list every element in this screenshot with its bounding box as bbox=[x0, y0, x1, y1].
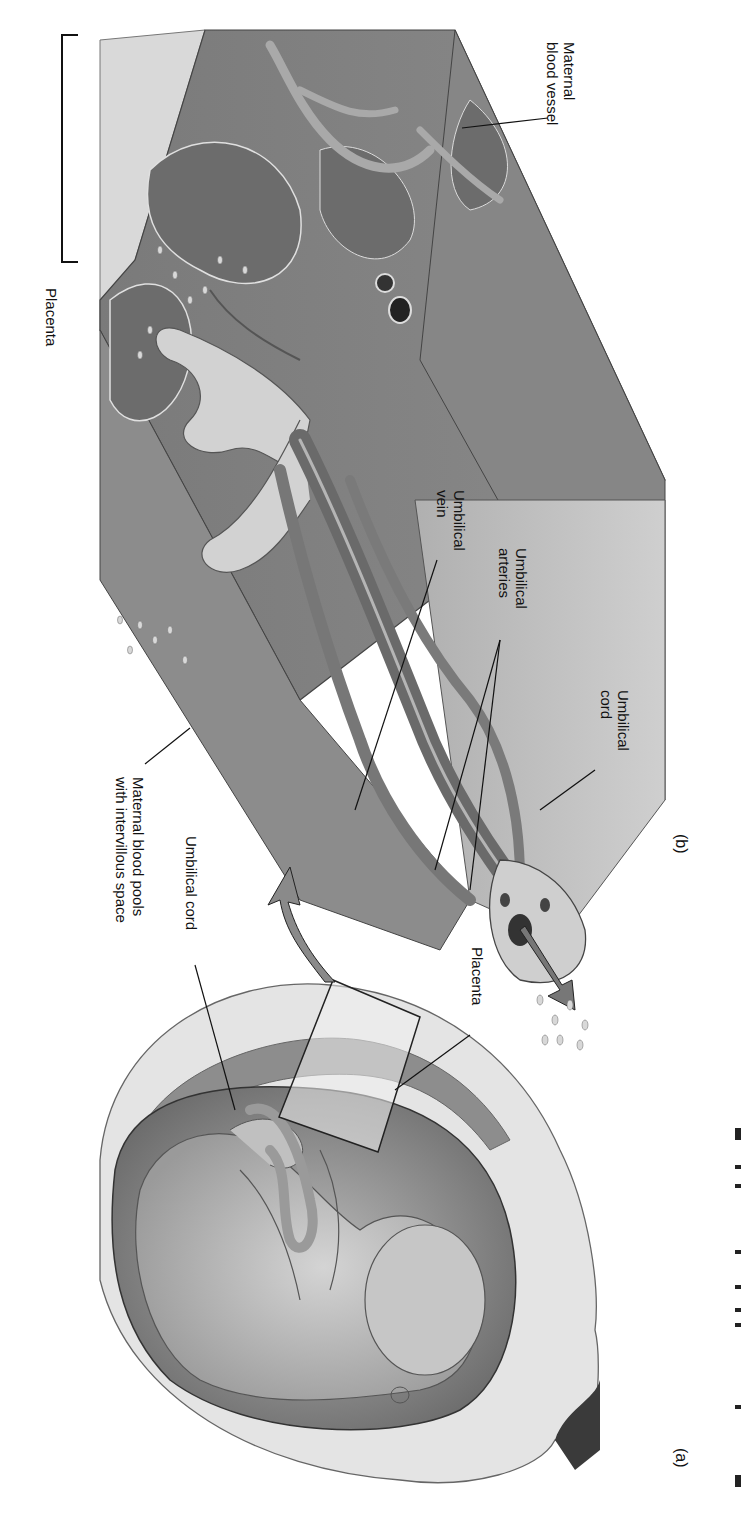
panel-label-b: (b) bbox=[672, 834, 690, 854]
placenta-figure: Placenta Maternal blood vessel Umbilical… bbox=[0, 0, 743, 1519]
figure-artwork bbox=[0, 0, 743, 1519]
label-umbilical-cord-b: Umbilical cord bbox=[598, 690, 632, 751]
label-maternal-blood-vessel: Maternal blood vessel bbox=[544, 42, 578, 125]
caption-fragment bbox=[735, 1128, 741, 1140]
caption-fragment bbox=[735, 1184, 741, 1188]
caption-fragment bbox=[735, 1405, 741, 1409]
label-maternal-blood-pools: Maternal blood pools with intervillous s… bbox=[113, 777, 147, 923]
label-placenta-bracket: Placenta bbox=[43, 288, 60, 346]
caption-fragment bbox=[735, 1250, 741, 1254]
label-umbilical-cord-a: Umbilical cord bbox=[183, 836, 200, 930]
label-placenta-a: Placenta bbox=[469, 947, 486, 1005]
label-umbilical-arteries: Umbilical arteries bbox=[496, 548, 530, 609]
label-umbilical-vein: Umbilical vein bbox=[434, 490, 468, 551]
caption-fragment bbox=[735, 1323, 741, 1327]
panel-label-a: (a) bbox=[672, 1448, 690, 1468]
caption-fragment bbox=[735, 1475, 741, 1487]
placenta-bracket bbox=[62, 35, 78, 262]
caption-fragment bbox=[735, 1285, 741, 1289]
caption-fragment bbox=[735, 1165, 741, 1169]
caption-fragment bbox=[735, 1308, 741, 1312]
